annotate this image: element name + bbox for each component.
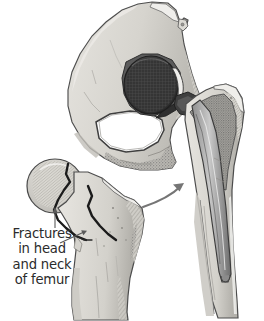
pelvis-bone — [68, 2, 200, 170]
caption-line-1: Fractures — [2, 226, 82, 241]
caption-line-3: and neck — [2, 257, 82, 272]
implanted-femur — [185, 84, 244, 318]
replacement-transition-arrow — [143, 183, 184, 207]
hip-replacement-illustration: Fractures in head and neck of femur — [0, 0, 264, 321]
caption-line-2: in head — [2, 241, 82, 256]
caption: Fractures in head and neck of femur — [2, 226, 82, 288]
caption-line-4: of femur — [2, 272, 82, 287]
